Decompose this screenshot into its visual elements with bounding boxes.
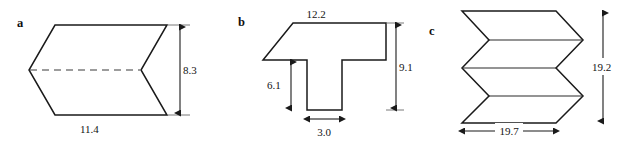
panel-c-shape-outline: [462, 11, 583, 123]
panel-a-label: a: [17, 16, 24, 30]
panel-a-height-dimension: 8.3: [167, 25, 206, 115]
panel-a: a 8.3 11.4: [17, 16, 206, 135]
figure-canvas: a 8.3 11.4 b: [0, 0, 643, 143]
panel-b-total-height-value: 9.1: [399, 61, 413, 73]
panel-b-top-width-value: 12.2: [306, 8, 325, 20]
panel-a-shape-outline: [29, 25, 167, 115]
panel-c-width-value: 19.7: [499, 125, 519, 137]
panel-b-stem-height-value: 6.1: [267, 79, 281, 91]
panel-b-stem-width-value: 3.0: [317, 126, 331, 138]
panel-b-stem-width-dimension: 3.0: [309, 119, 340, 138]
panel-a-width-dimension: 11.4: [80, 123, 99, 135]
panel-b-stem-height-dimension: 6.1: [265, 62, 291, 108]
panel-c: c 19.2 19.7: [429, 11, 619, 139]
panel-a-height-value: 8.3: [183, 64, 197, 76]
panel-b-total-height-dimension: 9.1: [386, 23, 422, 110]
panel-b: b 12.2 9.1 6.1: [238, 8, 422, 138]
panel-b-label: b: [238, 15, 245, 29]
panel-b-top-width-dimension: 12.2: [306, 8, 325, 20]
panel-a-width-value: 11.4: [80, 123, 99, 135]
panel-c-height-dimension: 19.2: [590, 13, 619, 121]
panel-c-height-value: 19.2: [592, 61, 611, 73]
panel-c-width-dimension: 19.7: [464, 123, 554, 139]
geometry-figure: a 8.3 11.4 b: [0, 0, 643, 143]
panel-b-shape-outline: [263, 23, 386, 110]
panel-c-label: c: [429, 24, 435, 38]
